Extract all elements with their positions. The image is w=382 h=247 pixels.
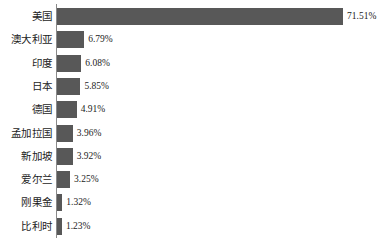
category-label: 澳大利亚 bbox=[0, 31, 52, 48]
bar-row: 爱尔兰3.25% bbox=[0, 171, 382, 188]
bar-row: 德国4.91% bbox=[0, 101, 382, 118]
bar-value-label: 5.85% bbox=[84, 78, 109, 95]
bar-row: 新加坡3.92% bbox=[0, 148, 382, 165]
bar-row: 孟加拉国3.96% bbox=[0, 125, 382, 142]
bar bbox=[57, 55, 81, 72]
bar-row: 美国71.51% bbox=[0, 8, 382, 25]
bar-value-label: 3.92% bbox=[77, 148, 102, 165]
bar bbox=[57, 194, 62, 211]
bar bbox=[57, 8, 343, 25]
bar bbox=[57, 101, 77, 118]
bar-value-label: 71.51% bbox=[347, 8, 376, 25]
bar bbox=[57, 171, 70, 188]
bar-value-label: 1.32% bbox=[66, 194, 91, 211]
category-label: 爱尔兰 bbox=[0, 171, 52, 188]
bar bbox=[57, 78, 80, 95]
bar-value-label: 6.79% bbox=[88, 31, 113, 48]
category-label: 比利时 bbox=[0, 218, 52, 235]
category-label: 刚果金 bbox=[0, 194, 52, 211]
bar-row: 印度6.08% bbox=[0, 55, 382, 72]
category-label: 日本 bbox=[0, 78, 52, 95]
category-label: 德国 bbox=[0, 101, 52, 118]
category-label: 新加坡 bbox=[0, 148, 52, 165]
bar bbox=[57, 125, 73, 142]
bar-row: 比利时1.23% bbox=[0, 218, 382, 235]
category-label: 美国 bbox=[0, 8, 52, 25]
bar-value-label: 4.91% bbox=[81, 101, 106, 118]
bar-row: 日本5.85% bbox=[0, 78, 382, 95]
horizontal-bar-chart: 美国71.51%澳大利亚6.79%印度6.08%日本5.85%德国4.91%孟加… bbox=[0, 0, 382, 247]
bar-row: 刚果金1.32% bbox=[0, 194, 382, 211]
category-label: 孟加拉国 bbox=[0, 125, 52, 142]
bar-value-label: 1.23% bbox=[66, 218, 91, 235]
bar-value-label: 3.25% bbox=[74, 171, 99, 188]
bar-value-label: 3.96% bbox=[77, 125, 102, 142]
bar bbox=[57, 148, 73, 165]
bar-value-label: 6.08% bbox=[85, 55, 110, 72]
bar-row: 澳大利亚6.79% bbox=[0, 31, 382, 48]
category-label: 印度 bbox=[0, 55, 52, 72]
bar bbox=[57, 218, 62, 235]
bar bbox=[57, 31, 84, 48]
